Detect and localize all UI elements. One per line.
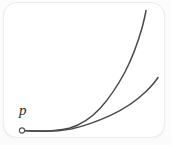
basepoint-marker-icon [19,128,24,133]
point-label-p: p [19,103,27,118]
curve-plot-canvas [0,0,171,145]
steep-curve-path [22,11,146,132]
figure-container: p [0,0,171,145]
bottom-shade [0,138,171,145]
shallow-curve-path [22,78,158,132]
